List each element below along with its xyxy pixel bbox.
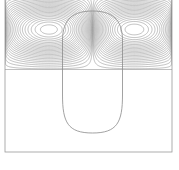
contour-plot-figure bbox=[0, 0, 179, 170]
plot-background bbox=[0, 0, 179, 170]
contour-plot-canvas bbox=[0, 0, 179, 170]
